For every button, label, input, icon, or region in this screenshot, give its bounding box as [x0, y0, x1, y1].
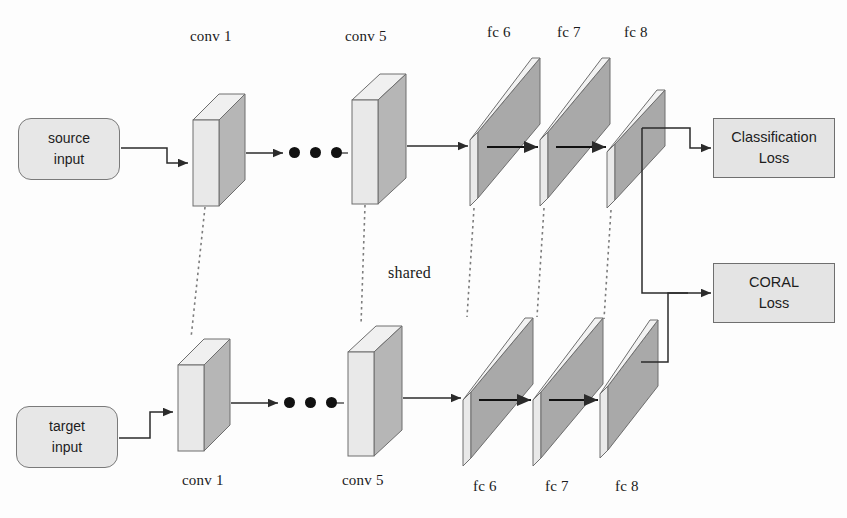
label-bottom-fc6: fc 6 [473, 478, 497, 495]
shared-link-fc6 [467, 208, 474, 317]
ellipsis-dot [326, 397, 337, 408]
ellipsis-dots-bottom [284, 397, 337, 408]
arrow-target-input-to-conv1 [119, 412, 173, 438]
target-input-box[interactable]: target input [16, 406, 118, 468]
label-top-fc8: fc 8 [624, 24, 648, 41]
ellipsis-dot [284, 397, 295, 408]
target-input-label-line2: input [52, 437, 82, 458]
conv5-block-top [352, 74, 406, 204]
fc6-slab-top [470, 58, 540, 206]
label-shared: shared [388, 264, 431, 282]
label-bottom-conv5: conv 5 [342, 472, 384, 489]
source-input-box[interactable]: source input [18, 118, 120, 180]
ellipsis-dots-top [289, 147, 342, 158]
conv1-block-top [193, 94, 245, 206]
arrow-source-input-to-conv1 [121, 148, 188, 163]
coral-loss-box[interactable]: CORAL Loss [713, 263, 835, 323]
shared-link-conv5 [361, 205, 365, 325]
classification-loss-label-line2: Loss [759, 148, 790, 169]
shared-link-fc8 [604, 210, 611, 319]
classification-loss-box[interactable]: Classification Loss [713, 118, 835, 178]
fc8-slab-top [607, 90, 665, 208]
fc7-slab-top [540, 58, 610, 206]
source-input-label-line2: input [54, 149, 84, 170]
shared-link-conv1 [191, 207, 205, 338]
shared-link-fc7 [537, 208, 544, 317]
coral-loss-label-line1: CORAL [749, 272, 799, 293]
target-input-label-line1: target [49, 416, 85, 437]
label-bottom-conv1: conv 1 [182, 472, 224, 489]
conv5-block-bottom [348, 326, 402, 456]
ellipsis-dot [289, 147, 300, 158]
source-input-label-line1: source [48, 128, 90, 149]
fc8-slab-bottom [600, 320, 658, 458]
ellipsis-dot [310, 147, 321, 158]
coral-loss-label-line2: Loss [759, 293, 790, 314]
label-bottom-fc8: fc 8 [615, 478, 639, 495]
classification-loss-label-line1: Classification [731, 127, 816, 148]
ellipsis-dot [331, 147, 342, 158]
label-top-fc6: fc 6 [487, 24, 511, 41]
figure-canvas: conv 1 conv 5 fc 6 fc 7 fc 8 conv 1 conv… [0, 0, 847, 518]
label-top-conv5: conv 5 [345, 28, 387, 45]
fc7-slab-bottom [533, 318, 603, 466]
label-bottom-fc7: fc 7 [545, 478, 569, 495]
label-top-fc7: fc 7 [557, 24, 581, 41]
fc6-slab-bottom [463, 318, 533, 466]
label-top-conv1: conv 1 [190, 28, 232, 45]
diagram-svg [0, 0, 847, 518]
conv1-block-bottom [178, 339, 230, 451]
ellipsis-dot [305, 397, 316, 408]
